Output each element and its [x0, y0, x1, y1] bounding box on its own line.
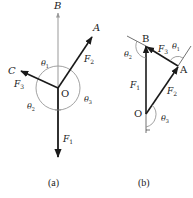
label-theta1-b: θ1: [172, 42, 180, 52]
caption-a: (a): [48, 177, 59, 189]
arc-theta3: [146, 105, 156, 127]
force-diagram: B A C O F2 F3 F1 θ1 θ2 θ3 (a) B A O F3: [0, 0, 193, 198]
figure-a: B A C O F2 F3 F1 θ1 θ2 θ3 (a): [8, 0, 100, 189]
label-f1-b: F1: [129, 80, 140, 91]
caption-b: (b): [138, 177, 150, 189]
arc-theta1: [170, 56, 183, 61]
label-theta3: θ3: [84, 95, 92, 105]
figure-b: B A O F3 F1 F2 θ1 θ2 θ3 (b): [124, 33, 191, 189]
label-o-b: O: [134, 108, 142, 119]
label-f3: F3: [13, 79, 24, 90]
vector-f3: [21, 71, 58, 88]
label-a-b: A: [179, 64, 188, 75]
label-c: C: [8, 65, 16, 76]
label-f3-b: F3: [157, 44, 168, 55]
label-f2: F2: [83, 54, 94, 65]
label-theta3-b: θ3: [161, 114, 169, 124]
label-theta1: θ1: [41, 59, 49, 69]
label-f2-b: F2: [166, 86, 177, 97]
label-o: O: [61, 88, 69, 99]
label-theta2: θ2: [27, 102, 35, 112]
label-a: A: [92, 22, 100, 33]
label-b-b: B: [142, 33, 149, 44]
label-theta2-b: θ2: [124, 50, 132, 60]
label-f1: F1: [62, 134, 73, 145]
label-b: B: [53, 0, 61, 11]
